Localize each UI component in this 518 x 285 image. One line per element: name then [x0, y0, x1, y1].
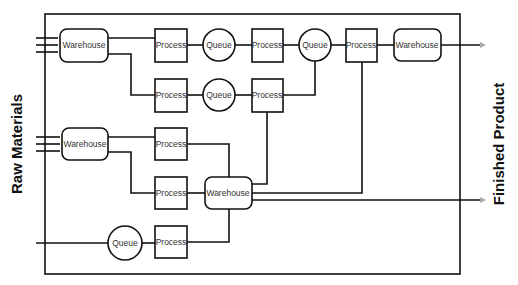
- process-r1-3[interactable]: Process: [346, 29, 377, 62]
- input-lines-mid: [36, 137, 60, 151]
- warehouse-input-mid[interactable]: Warehouse: [62, 128, 108, 160]
- svg-text:Warehouse: Warehouse: [63, 139, 106, 149]
- process-r2-2[interactable]: Process: [252, 79, 283, 112]
- svg-text:Queue: Queue: [206, 40, 232, 50]
- svg-text:Queue: Queue: [302, 40, 328, 50]
- svg-text:Warehouse: Warehouse: [62, 40, 105, 50]
- raw-materials-label: Raw Materials: [8, 94, 25, 194]
- svg-text:Process: Process: [156, 237, 187, 247]
- process-r1-1[interactable]: Process: [155, 29, 187, 62]
- process-r5[interactable]: Process: [155, 226, 187, 258]
- svg-text:Queue: Queue: [206, 90, 232, 100]
- svg-text:Process: Process: [156, 40, 187, 50]
- queue-r1-2[interactable]: Queue: [299, 29, 331, 61]
- svg-text:Process: Process: [156, 90, 187, 100]
- svg-text:Queue: Queue: [112, 238, 138, 248]
- process-r4[interactable]: Process: [155, 177, 187, 209]
- warehouse-input-top[interactable]: Warehouse: [60, 29, 108, 62]
- svg-text:Warehouse: Warehouse: [395, 40, 438, 50]
- svg-text:Warehouse: Warehouse: [206, 188, 249, 198]
- svg-text:Process: Process: [252, 40, 283, 50]
- svg-text:Process: Process: [346, 40, 377, 50]
- warehouse-center[interactable]: Warehouse: [205, 177, 252, 209]
- finished-product-label: Finished Product: [490, 83, 507, 206]
- process-r1-2[interactable]: Process: [252, 29, 283, 62]
- supply-chain-diagram: Raw Materials Finished Product: [0, 0, 518, 285]
- process-r3[interactable]: Process: [155, 128, 187, 160]
- svg-text:Process: Process: [156, 139, 187, 149]
- arrow-heads: [480, 42, 486, 203]
- queue-r1-1[interactable]: Queue: [203, 29, 235, 61]
- queue-r5[interactable]: Queue: [108, 226, 142, 260]
- svg-text:Process: Process: [252, 90, 283, 100]
- svg-text:Process: Process: [156, 188, 187, 198]
- queue-r2[interactable]: Queue: [203, 79, 235, 111]
- warehouse-output[interactable]: Warehouse: [394, 29, 441, 61]
- input-lines-top: [36, 38, 58, 52]
- process-r2-1[interactable]: Process: [155, 79, 187, 112]
